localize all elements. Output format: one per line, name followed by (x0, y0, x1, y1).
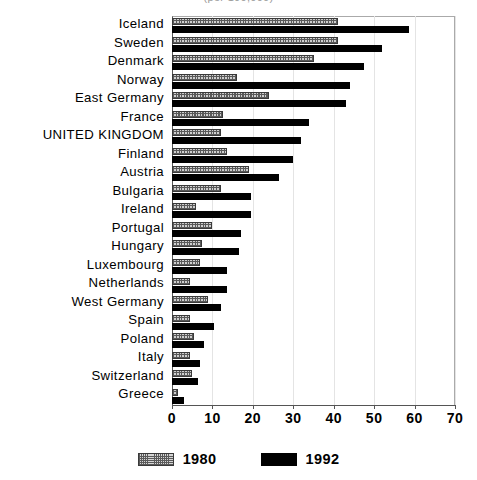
bar-row (172, 146, 455, 165)
bar-row (172, 312, 455, 331)
x-axis-line (172, 405, 456, 406)
x-tick-50 (374, 405, 375, 409)
y-axis-label-finland: Finland (118, 144, 164, 163)
x-tick-30 (293, 405, 294, 409)
bar-1992 (172, 100, 346, 107)
bar-1992 (172, 193, 251, 200)
y-axis-label-norway: Norway (117, 70, 164, 89)
bar-row (172, 238, 455, 257)
bar-row (172, 257, 455, 276)
y-axis-label-united-kingdom: UNITED KINGDOM (43, 125, 164, 144)
bar-1992 (172, 63, 364, 70)
bar-1992 (172, 156, 293, 163)
legend-item-1980: 1980 (138, 451, 217, 467)
bar-1992 (172, 82, 350, 89)
bar-1980 (172, 370, 192, 377)
plot-area (172, 16, 455, 405)
x-tick-label-30: 30 (273, 410, 313, 426)
bar-row (172, 109, 455, 128)
x-tick-label-40: 40 (314, 410, 354, 426)
bar-row (172, 72, 455, 91)
x-tick-60 (415, 405, 416, 409)
x-tick-label-60: 60 (395, 410, 435, 426)
bar-1980 (172, 129, 221, 136)
y-axis-label-east-germany: East Germany (75, 88, 164, 107)
y-axis-label-iceland: Iceland (119, 14, 164, 33)
bar-1992 (172, 304, 221, 311)
y-axis-label-austria: Austria (120, 162, 164, 181)
bar-row (172, 349, 455, 368)
bar-row (172, 386, 455, 405)
bar-1992 (172, 45, 382, 52)
legend-item-1992: 1992 (261, 451, 340, 467)
y-axis-label-ireland: Ireland (121, 199, 164, 218)
bar-1980 (172, 74, 237, 81)
legend-label-1992: 1992 (306, 451, 340, 467)
bar-row (172, 220, 455, 239)
bar-row (172, 127, 455, 146)
bar-1992 (172, 119, 309, 126)
bar-1980 (172, 55, 314, 62)
y-axis-label-sweden: Sweden (114, 33, 164, 52)
bar-row (172, 294, 455, 313)
legend-swatch-1992-icon (261, 453, 297, 466)
bar-1980 (172, 278, 190, 285)
bar-1980 (172, 315, 190, 322)
bar-1980 (172, 92, 269, 99)
bar-row (172, 35, 455, 54)
x-tick-label-10: 10 (192, 410, 232, 426)
y-axis-category-labels: IcelandSwedenDenmarkNorwayEast GermanyFr… (0, 16, 168, 405)
bar-row (172, 53, 455, 72)
y-axis-label-netherlands: Netherlands (88, 273, 164, 292)
bar-1980 (172, 148, 227, 155)
bar-1980 (172, 18, 338, 25)
y-axis-label-hungary: Hungary (111, 236, 164, 255)
y-axis-label-denmark: Denmark (108, 51, 164, 70)
bar-row (172, 368, 455, 387)
bar-1992 (172, 267, 227, 274)
y-axis-label-switzerland: Switzerland (91, 366, 164, 385)
y-axis-label-france: France (121, 107, 164, 126)
bar-1992 (172, 26, 409, 33)
bar-1980 (172, 185, 221, 192)
bar-row (172, 331, 455, 350)
y-axis-label-west-germany: West Germany (72, 292, 165, 311)
bar-1992 (172, 211, 251, 218)
y-axis-label-greece: Greece (118, 384, 164, 403)
x-tick-label-0: 0 (152, 410, 192, 426)
legend: 1980 1992 (0, 446, 477, 472)
y-axis-label-poland: Poland (121, 329, 164, 348)
bar-row (172, 183, 455, 202)
bar-1992 (172, 378, 198, 385)
bar-1980 (172, 222, 212, 229)
gridline-70 (455, 16, 456, 405)
bar-chart-figure: (per 100,000) IcelandSwedenDenmarkNorway… (0, 0, 477, 480)
bar-rows (172, 16, 455, 405)
legend-label-1980: 1980 (183, 451, 217, 467)
bar-1992 (172, 341, 204, 348)
bar-1992 (172, 360, 200, 367)
bar-row (172, 275, 455, 294)
bar-row (172, 164, 455, 183)
y-axis-label-italy: Italy (138, 347, 164, 366)
bar-1992 (172, 248, 239, 255)
bar-row (172, 201, 455, 220)
bar-1980 (172, 333, 194, 340)
bar-row (172, 16, 455, 35)
legend-swatch-1980-icon (138, 453, 174, 466)
bar-1980 (172, 352, 190, 359)
bar-1992 (172, 397, 184, 404)
bar-1980 (172, 240, 202, 247)
bar-1980 (172, 111, 223, 118)
bar-1992 (172, 286, 227, 293)
x-tick-70 (455, 405, 456, 409)
y-axis-label-luxembourg: Luxembourg (87, 255, 164, 274)
x-tick-0 (172, 405, 173, 409)
x-tick-40 (334, 405, 335, 409)
x-tick-label-20: 20 (233, 410, 273, 426)
x-tick-label-70: 70 (435, 410, 475, 426)
bar-1992 (172, 230, 241, 237)
bar-1980 (172, 259, 200, 266)
bar-1992 (172, 323, 214, 330)
clipped-title: (per 100,000) (0, 0, 477, 3)
